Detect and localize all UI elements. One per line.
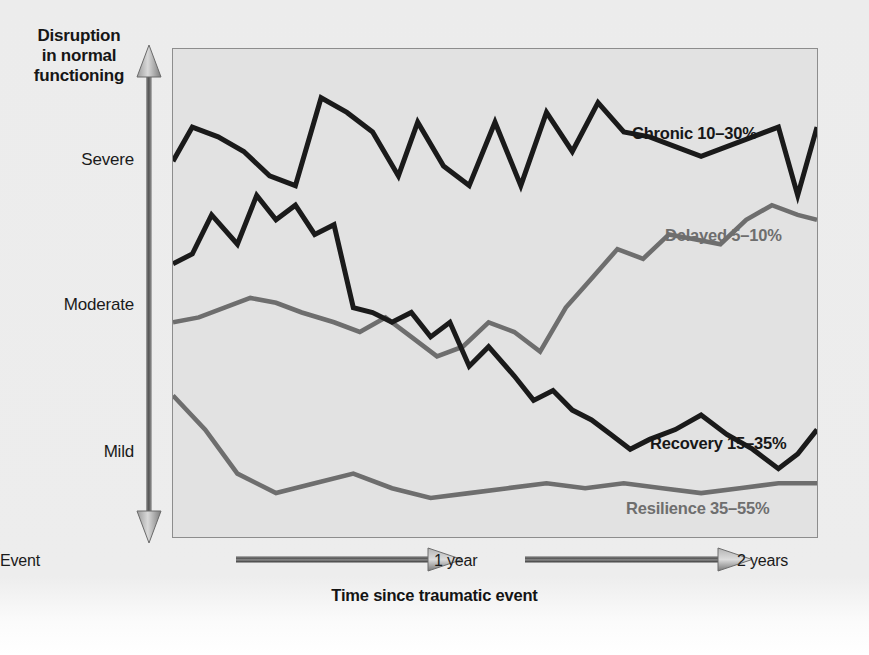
- series-label-delayed: Delayed 5–10%: [665, 226, 782, 245]
- series-label-resilience: Resilience 35–55%: [626, 499, 769, 518]
- figure-canvas: Disruption in normal functioning Severe …: [0, 0, 869, 655]
- x-tick-1-year: 1 year: [434, 552, 477, 570]
- y-axis-title-line-3: functioning: [14, 66, 144, 86]
- series-label-recovery: Recovery 15–35%: [650, 434, 786, 453]
- series-label-chronic: Chronic 10–30%: [632, 124, 757, 143]
- y-axis-title-line-2: in normal: [14, 46, 144, 66]
- y-tick-severe: Severe: [14, 150, 134, 170]
- plot-area: [172, 48, 818, 538]
- y-axis-title-line-1: Disruption: [14, 26, 144, 46]
- y-axis-double-arrow-icon: [134, 44, 164, 544]
- y-tick-moderate: Moderate: [14, 295, 134, 315]
- series-lines-svg: [173, 49, 817, 537]
- series-line-chronic: [173, 98, 817, 196]
- x-tick-2-years: 2 years: [737, 552, 788, 570]
- y-axis-title: Disruption in normal functioning: [14, 26, 144, 86]
- x-axis-title: Time since traumatic event: [0, 586, 869, 605]
- x-tick-event: Event: [0, 552, 40, 570]
- y-tick-mild: Mild: [14, 442, 134, 462]
